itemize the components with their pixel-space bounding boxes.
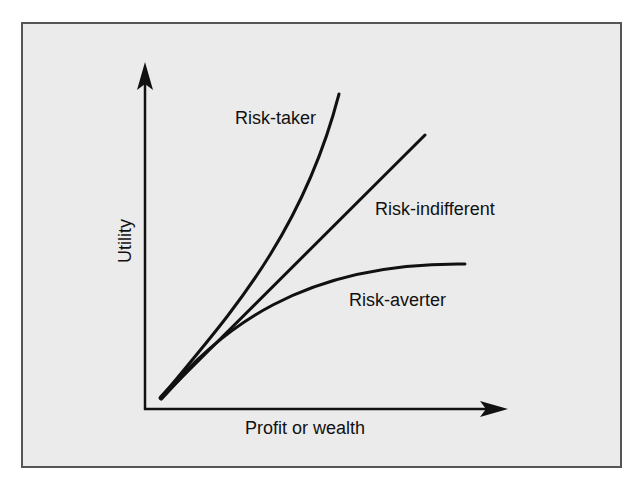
y-axis-label: Utility xyxy=(115,219,135,263)
risk-averter-curve xyxy=(161,264,465,398)
y-axis xyxy=(137,62,153,410)
x-axis xyxy=(144,401,508,417)
risk-taker-label: Risk-taker xyxy=(235,108,316,128)
risk-indifferent-label: Risk-indifferent xyxy=(375,199,495,219)
utility-curves-diagram: Risk-taker Risk-indifferent Risk-averter… xyxy=(0,0,639,493)
curves-origin-segment xyxy=(161,372,185,398)
x-axis-label: Profit or wealth xyxy=(245,418,365,438)
risk-averter-label: Risk-averter xyxy=(349,290,446,310)
